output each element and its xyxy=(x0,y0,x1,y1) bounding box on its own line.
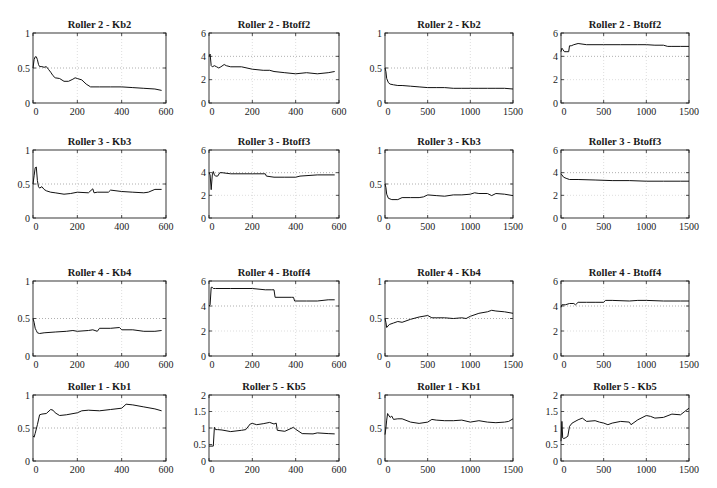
y-tick-label: 2 xyxy=(553,390,558,401)
data-series-line xyxy=(561,408,689,441)
y-tick-label: 0.5 xyxy=(546,439,559,450)
y-tick-label: 1.5 xyxy=(546,406,559,417)
y-tick-label: 1 xyxy=(553,423,558,434)
y-tick-label: 0 xyxy=(553,456,558,467)
plot-area: 05001000150000.511.52 xyxy=(0,0,717,488)
subplot-grid: Roller 2 - Kb2020040060000.51Roller 2 - … xyxy=(0,0,717,488)
x-tick-label: 1000 xyxy=(636,464,656,475)
x-tick-label: 0 xyxy=(562,464,567,475)
x-tick-label: 1500 xyxy=(679,464,699,475)
x-tick-label: 500 xyxy=(596,464,611,475)
